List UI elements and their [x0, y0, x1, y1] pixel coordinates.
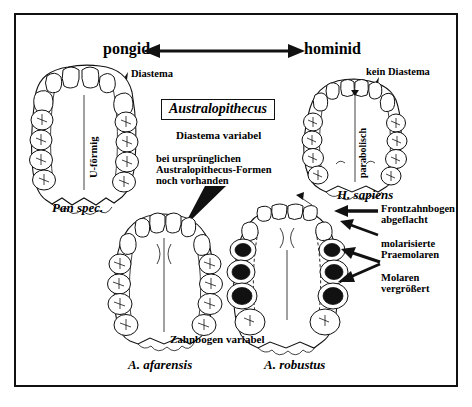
- label-molaren-line1: Molaren: [381, 272, 419, 283]
- label-zahnbogen-variabel: Zahnbogen variabel: [170, 334, 264, 346]
- figure-stage: pongid hominid Diastema kein Diastema: [0, 0, 472, 407]
- label-frontzahnbogen-line2: abgeflacht: [381, 214, 428, 225]
- figure-caption: [14, 394, 458, 405]
- label-praemolaren-line2: Praemolaren: [381, 249, 439, 260]
- label-frontzahnbogen-line1: Frontzahnbogen: [381, 203, 455, 214]
- specimen-label-robustus: A. robustus: [264, 358, 325, 372]
- specimen-label-afarensis: A. afarensis: [128, 358, 192, 372]
- label-molaren-line2: vergrößert: [381, 283, 429, 294]
- label-praemolaren-line1: molarisierte: [381, 238, 435, 249]
